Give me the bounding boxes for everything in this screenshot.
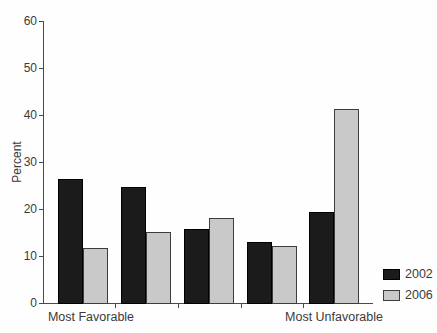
- y-tick-mark-10: [39, 256, 43, 257]
- bar-2002-group-3: [184, 229, 209, 304]
- y-tick-mark-20: [39, 209, 43, 210]
- bar-2002-group-4: [247, 242, 272, 304]
- bar-chart-figure: Percent 0102030405060 Most Favorable Mos…: [0, 0, 437, 333]
- y-tick-mark-30: [39, 162, 43, 163]
- y-tick-label-30: 30: [10, 155, 37, 169]
- bar-2002-group-2: [121, 187, 146, 304]
- bar-2006-group-3: [209, 218, 234, 304]
- bar-2006-group-2: [146, 232, 171, 304]
- legend-label-2006: 2006: [405, 288, 433, 303]
- y-tick-label-20: 20: [10, 202, 37, 216]
- y-tick-mark-40: [39, 115, 43, 116]
- x-tick-mark-3: [241, 304, 242, 308]
- legend: 2002 2006: [383, 267, 433, 303]
- x-category-label-most-favorable: Most Favorable: [48, 310, 134, 324]
- x-category-label-most-unfavorable: Most Unfavorable: [285, 310, 383, 324]
- bar-2006-group-1: [83, 248, 108, 304]
- x-tick-mark-1: [115, 304, 116, 308]
- y-tick-label-0: 0: [10, 296, 37, 310]
- x-tick-mark-2: [178, 304, 179, 308]
- bar-2002-group-1: [58, 179, 83, 304]
- y-tick-label-40: 40: [10, 108, 37, 122]
- x-tick-mark-4: [303, 304, 304, 308]
- y-axis-line: [43, 21, 44, 304]
- y-tick-label-60: 60: [10, 14, 37, 28]
- legend-swatch-2002: [383, 269, 400, 280]
- y-tick-mark-60: [39, 21, 43, 22]
- legend-item-2006: 2006: [383, 288, 433, 303]
- y-tick-mark-0: [39, 303, 43, 304]
- bar-2002-group-5: [309, 212, 334, 304]
- y-tick-label-10: 10: [10, 249, 37, 263]
- legend-item-2002: 2002: [383, 267, 433, 282]
- legend-label-2002: 2002: [405, 267, 433, 282]
- bar-2006-group-4: [272, 246, 297, 304]
- y-tick-label-50: 50: [10, 61, 37, 75]
- y-tick-mark-50: [39, 68, 43, 69]
- legend-swatch-2006: [383, 290, 400, 301]
- bar-2006-group-5: [334, 109, 359, 304]
